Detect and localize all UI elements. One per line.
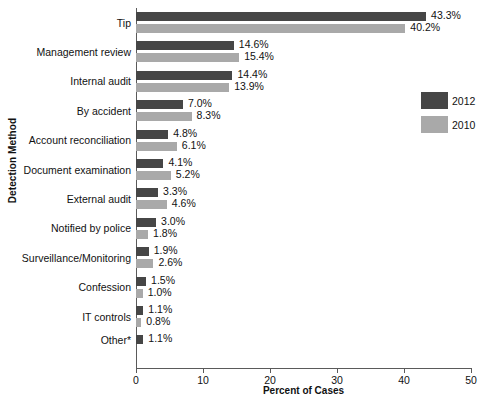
legend-label: 2012 (452, 95, 475, 107)
bar-value-label: 3.3% (163, 186, 187, 197)
bar-group-2012: 3.0% (136, 218, 471, 227)
bar-group-2010: 40.2% (136, 24, 471, 33)
bar-group-2012: 3.3% (136, 188, 471, 197)
x-tick (471, 369, 472, 373)
bar-value-label: 1.8% (153, 228, 177, 239)
bar-2012 (136, 335, 143, 344)
bar-value-label: 14.4% (237, 69, 267, 80)
legend-swatch (421, 116, 448, 133)
bar-value-label: 1.0% (148, 287, 172, 298)
bar-value-label: 8.3% (197, 110, 221, 121)
bar-value-label: 1.5% (151, 275, 175, 286)
bar-group-2012: 1.1% (136, 335, 471, 344)
category-label: IT controls (82, 312, 131, 323)
bar-group-2010: 2.6% (136, 259, 471, 268)
category-label: Document examination (24, 165, 131, 176)
bar-group-2010: 6.1% (136, 142, 471, 151)
bar-2010 (136, 83, 229, 92)
bar-value-label: 5.2% (176, 169, 200, 180)
bar-group-2012: 4.1% (136, 159, 471, 168)
legend-swatch (421, 92, 448, 109)
bar-group-2012: 1.9% (136, 247, 471, 256)
bar-2010 (136, 112, 192, 121)
bar-2012 (136, 188, 158, 197)
bar-2010 (136, 230, 148, 239)
category-label: Tip (117, 18, 131, 29)
bar-2010 (136, 289, 143, 298)
plot-area: Tip43.3%40.2%Management review14.6%15.4%… (136, 8, 471, 368)
bar-value-label: 2.6% (158, 257, 182, 268)
category-label: Management review (36, 47, 131, 58)
bar-value-label: 14.6% (239, 39, 269, 50)
bar-group-2010: 1.8% (136, 230, 471, 239)
bar-value-label: 4.8% (173, 128, 197, 139)
bar-2012 (136, 71, 232, 80)
bar-group-2010: 5.2% (136, 171, 471, 180)
bar-value-label: 1.9% (154, 245, 178, 256)
bar-value-label: 3.0% (161, 216, 185, 227)
x-tick (337, 369, 338, 373)
bar-2010 (136, 259, 153, 268)
x-tick (270, 369, 271, 373)
bar-value-label: 15.4% (244, 51, 274, 62)
bar-value-label: 0.8% (146, 316, 170, 327)
bar-value-label: 6.1% (182, 140, 206, 151)
x-axis-line (136, 368, 472, 369)
bar-2012 (136, 159, 163, 168)
category-label: External audit (67, 194, 131, 205)
category-label: Account reconciliation (29, 135, 131, 146)
category-label: Internal audit (70, 76, 131, 87)
bar-2010 (136, 24, 405, 33)
bar-2012 (136, 100, 183, 109)
bar-2012 (136, 41, 234, 50)
bar-value-label: 40.2% (410, 22, 440, 33)
bar-2010 (136, 200, 167, 209)
bar-value-label: 43.3% (431, 10, 461, 21)
bar-chart: Detection Method Tip43.3%40.2%Management… (0, 0, 483, 402)
legend-label: 2010 (452, 119, 475, 131)
category-label: Confession (78, 282, 131, 293)
bar-value-label: 1.1% (148, 304, 172, 315)
x-tick (404, 369, 405, 373)
bar-2012 (136, 247, 149, 256)
bar-2010 (136, 171, 171, 180)
x-axis-title: Percent of Cases (136, 385, 471, 396)
bar-group-2012: 14.6% (136, 41, 471, 50)
bar-2012 (136, 218, 156, 227)
y-axis-title: Detection Method (7, 101, 18, 221)
x-tick (136, 369, 137, 373)
bar-value-label: 7.0% (188, 98, 212, 109)
bar-2010 (136, 53, 239, 62)
bar-group-2010: 15.4% (136, 53, 471, 62)
bar-value-label: 4.1% (168, 157, 192, 168)
bar-group-2012: 14.4% (136, 71, 471, 80)
bar-group-2012: 1.5% (136, 277, 471, 286)
bar-2012 (136, 130, 168, 139)
category-label: Other* (101, 335, 131, 346)
bar-group-2010: 4.6% (136, 200, 471, 209)
bar-group-2012: 1.1% (136, 306, 471, 315)
bar-2010 (136, 142, 177, 151)
bar-group-2012: 43.3% (136, 12, 471, 21)
category-label: By accident (77, 106, 131, 117)
bar-value-label: 1.1% (148, 333, 172, 344)
bar-value-label: 13.9% (234, 81, 264, 92)
bar-group-2010: 1.0% (136, 289, 471, 298)
x-tick (203, 369, 204, 373)
bar-group-2010: 0.8% (136, 318, 471, 327)
bar-2012 (136, 277, 146, 286)
category-label: Notified by police (51, 223, 131, 234)
bar-value-label: 4.6% (172, 198, 196, 209)
bar-2012 (136, 12, 426, 21)
category-label: Surveillance/Monitoring (22, 253, 131, 264)
bar-group-2010: 13.9% (136, 83, 471, 92)
bar-2012 (136, 306, 143, 315)
bar-2010 (136, 318, 141, 327)
